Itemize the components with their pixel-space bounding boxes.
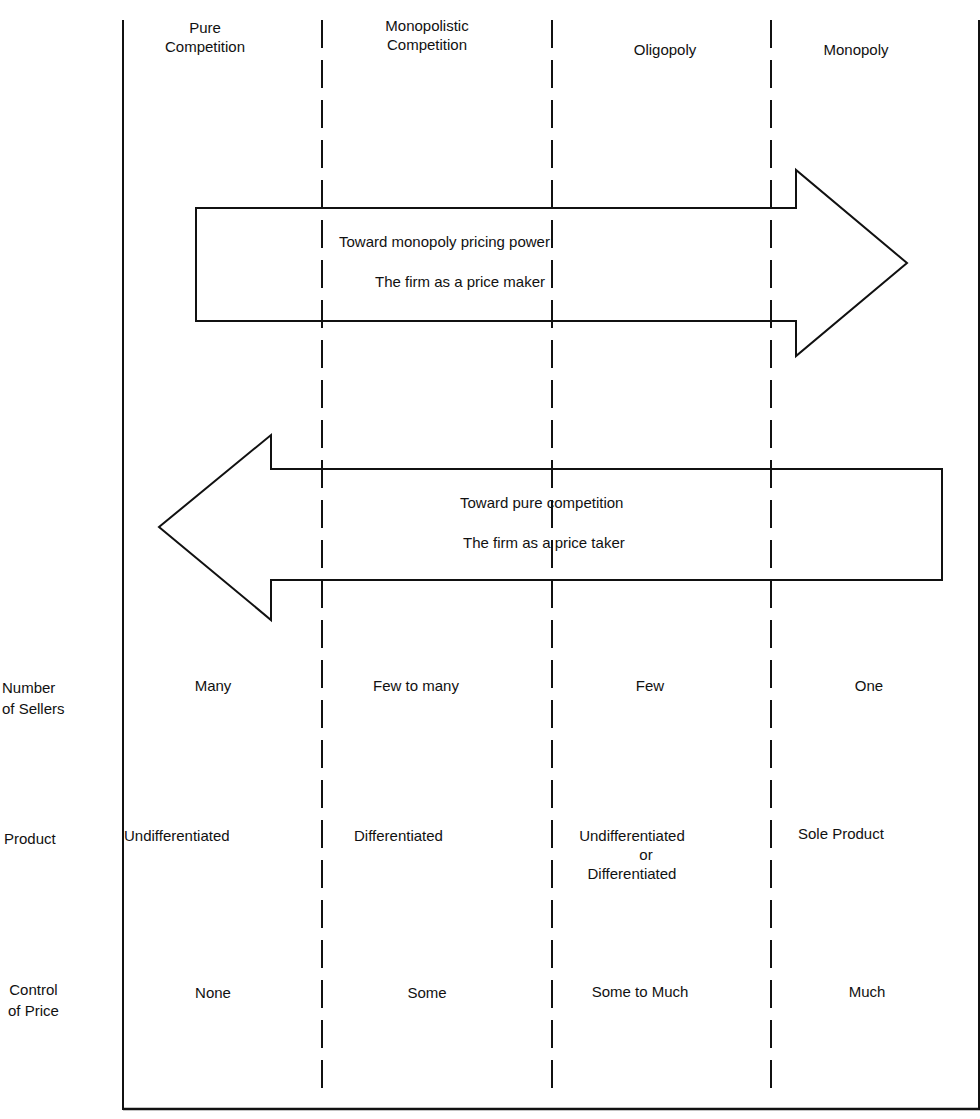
cell-price-monopoly: Much xyxy=(797,982,937,1001)
cell-product-monopolistic: Differentiated xyxy=(354,826,494,845)
cell-price-monopolistic: Some xyxy=(357,983,497,1002)
cell-sellers-pure: Many xyxy=(143,676,283,695)
column-header-pure-competition: Pure Competition xyxy=(143,18,267,56)
header-line: Competition xyxy=(143,37,267,56)
product-line: Undifferentiated xyxy=(560,826,704,845)
row-label-number-of-sellers: Number of Sellers xyxy=(2,677,65,719)
cell-price-pure: None xyxy=(143,983,283,1002)
header-line: Competition xyxy=(362,35,492,54)
cell-sellers-oligopoly: Few xyxy=(580,676,720,695)
cell-product-pure: Undifferentiated xyxy=(124,826,258,845)
arrow-left-icon xyxy=(159,435,942,620)
header-line: Monopoly xyxy=(776,40,936,59)
cell-product-monopoly: Sole Product xyxy=(798,824,908,843)
row-label-line: of Price xyxy=(8,1000,59,1021)
cell-price-oligopoly: Some to Much xyxy=(570,982,710,1001)
column-header-oligopoly: Oligopoly xyxy=(560,40,770,59)
product-line: or xyxy=(560,845,704,864)
market-structure-diagram xyxy=(0,0,980,1119)
arrow-left-text-2: The firm as a price taker xyxy=(463,534,625,551)
row-label-line: Product xyxy=(4,828,56,849)
cell-sellers-monopolistic: Few to many xyxy=(346,676,486,695)
header-line: Oligopoly xyxy=(560,40,770,59)
row-label-line: of Sellers xyxy=(2,698,65,719)
cell-product-oligopoly: Undifferentiated or Differentiated xyxy=(560,826,704,883)
header-line: Monopolistic xyxy=(362,16,492,35)
row-label-product: Product xyxy=(4,828,56,849)
arrow-left-text-1: Toward pure competition xyxy=(460,494,623,511)
column-header-monopoly: Monopoly xyxy=(776,40,936,59)
row-label-line: Number xyxy=(2,677,65,698)
row-label-line: Control xyxy=(8,979,59,1000)
cell-sellers-monopoly: One xyxy=(799,676,939,695)
product-line: Differentiated xyxy=(560,864,704,883)
column-header-monopolistic-competition: Monopolistic Competition xyxy=(362,16,492,54)
arrow-right-text-2: The firm as a price maker xyxy=(375,273,545,290)
header-line: Pure xyxy=(143,18,267,37)
arrow-right-text-1: Toward monopoly pricing power xyxy=(339,233,550,250)
row-label-control-of-price: Control of Price xyxy=(8,979,59,1021)
